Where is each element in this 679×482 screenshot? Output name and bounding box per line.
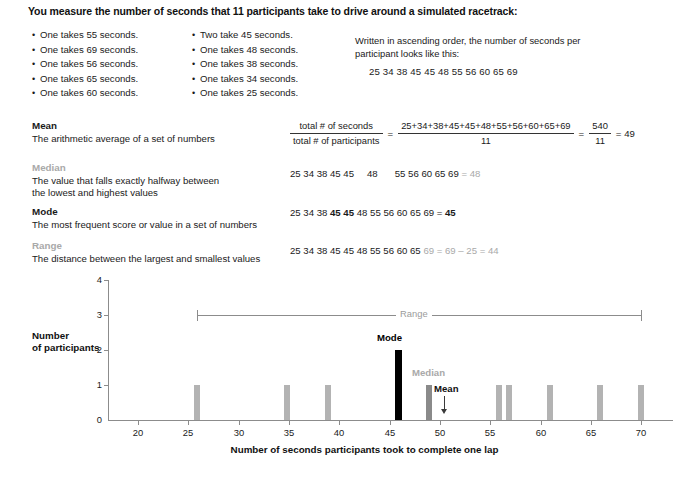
list-item-label: One takes 25 seconds.: [200, 86, 298, 101]
x-tick-mark-55: [490, 421, 491, 425]
bar-56: [506, 385, 512, 420]
definition-term: Mean: [32, 120, 215, 133]
y-tick-label-2: 2: [88, 344, 102, 355]
bullet-icon: •: [192, 86, 200, 101]
mode-equals-sign: =: [437, 207, 443, 218]
y-tick-label-3: 3: [88, 309, 102, 320]
median-middle-value: 48: [367, 168, 378, 179]
bar-34: [284, 385, 290, 420]
x-tick-mark-50: [440, 421, 441, 425]
bullet-icon: •: [192, 28, 200, 43]
list-item: • One takes 65 seconds.: [32, 72, 138, 87]
list-item: • One takes 34 seconds.: [192, 72, 298, 87]
median-annotation-label: Median: [412, 367, 445, 378]
x-tick-mark-70: [641, 421, 642, 425]
bar-55: [496, 385, 502, 420]
bullet-icon: •: [32, 57, 40, 72]
list-item: • One takes 25 seconds.: [192, 86, 298, 101]
mean-total-denominator: 11: [589, 134, 611, 147]
bullet-icon: •: [192, 72, 200, 87]
list-item: • One takes 69 seconds.: [32, 43, 138, 58]
definition-range: Range The distance between the largest a…: [32, 240, 260, 265]
list-item: • One takes 56 seconds.: [32, 57, 138, 72]
y-axis-line: [108, 280, 109, 421]
list-item: • One takes 48 seconds.: [192, 43, 298, 58]
list-item-label: One takes 69 seconds.: [40, 43, 138, 58]
mean-sum-numerator: 25+34+38+45+45+48+55+56+60+65+69: [398, 120, 573, 134]
mean-sum-denominator: 11: [398, 134, 573, 147]
x-tick-label-40: 40: [329, 427, 349, 438]
measurement-list-column-1: • One takes 55 seconds. • One takes 69 s…: [32, 28, 138, 101]
bar-45-mode: [395, 350, 402, 420]
bullet-icon: •: [32, 72, 40, 87]
mode-calculation: 25 34 38 45 45 48 55 56 60 65 69 = 45: [290, 207, 456, 218]
mean-annotation-label: Mean: [434, 383, 459, 394]
mode-values-before: 25 34 38: [290, 207, 327, 218]
mode-values-after: 48 55 56 60 65 69: [357, 207, 434, 218]
bullet-icon: •: [32, 86, 40, 101]
definition-term: Range: [32, 240, 260, 253]
bullet-icon: •: [192, 43, 200, 58]
median-left-values: 25 34 38 45 45: [290, 168, 354, 179]
definition-description: The distance between the largest and sma…: [32, 253, 260, 266]
list-item: • One takes 55 seconds.: [32, 28, 138, 43]
range-result: = 69 – 25 = 44: [437, 245, 499, 256]
mean-total-numerator: 540: [589, 120, 611, 134]
list-item-label: One takes 65 seconds.: [40, 72, 138, 87]
list-item: • One takes 38 seconds.: [192, 57, 298, 72]
y-tick-label-0: 0: [88, 414, 102, 425]
page-title: You measure the number of seconds that 1…: [28, 5, 658, 17]
range-annotation-label: Range: [396, 308, 432, 319]
bar-69: [638, 385, 644, 420]
range-max-value: 69: [423, 245, 434, 256]
x-tick-label-70: 70: [631, 427, 651, 438]
mode-result: 45: [445, 207, 456, 218]
bar-60: [547, 385, 553, 420]
bullet-icon: •: [192, 57, 200, 72]
distribution-chart: Number of participants 4 3 2 1 0 Range: [0, 268, 679, 482]
measurement-list-column-2: • Two take 45 seconds. • One takes 48 se…: [192, 28, 298, 101]
mode-highlighted-values: 45 45: [330, 207, 354, 218]
equals-sign-1: =: [388, 128, 394, 139]
list-item: • One takes 60 seconds.: [32, 86, 138, 101]
ascending-order-note: Written in ascending order, the number o…: [355, 35, 585, 60]
range-cap-right: [641, 310, 642, 321]
x-tick-mark-25: [188, 421, 189, 425]
definition-term: Mode: [32, 206, 257, 219]
list-item-label: One takes 48 seconds.: [200, 43, 298, 58]
x-axis-title: Number of seconds participants took to c…: [25, 444, 679, 455]
mean-ratio-numerator: total # of seconds: [290, 120, 383, 134]
bullet-icon: •: [32, 43, 40, 58]
list-item-label: One takes 56 seconds.: [40, 57, 138, 72]
list-item-label: One takes 60 seconds.: [40, 86, 138, 101]
x-tick-mark-60: [541, 421, 542, 425]
range-calculation: 25 34 38 45 45 48 55 56 60 65 69 = 69 – …: [290, 245, 499, 256]
bullet-icon: •: [32, 28, 40, 43]
infographic-page: You measure the number of seconds that 1…: [0, 0, 679, 482]
x-tick-mark-30: [239, 421, 240, 425]
range-values-before: 25 34 38 45 45 48 55 56 60 65: [290, 245, 421, 256]
definition-description: The arithmetic average of a set of numbe…: [32, 133, 215, 146]
definition-term: Median: [32, 162, 219, 175]
x-tick-mark-20: [138, 421, 139, 425]
definition-description-line-1: The value that falls exactly halfway bet…: [32, 175, 219, 188]
mean-ratio-fraction: total # of seconds total # of participan…: [290, 120, 383, 147]
list-item-label: One takes 34 seconds.: [200, 72, 298, 87]
bar-25: [194, 385, 200, 420]
bar-65: [597, 385, 603, 420]
equals-sign-2: =: [579, 128, 585, 139]
bar-38: [325, 385, 331, 420]
x-tick-label-60: 60: [531, 427, 551, 438]
definition-mean: Mean The arithmetic average of a set of …: [32, 120, 215, 145]
mean-calculation: total # of seconds total # of participan…: [290, 120, 635, 147]
x-tick-label-55: 55: [480, 427, 500, 438]
x-tick-mark-45: [390, 421, 391, 425]
x-tick-label-30: 30: [229, 427, 249, 438]
definition-median: Median The value that falls exactly half…: [32, 162, 219, 200]
x-tick-label-20: 20: [128, 427, 148, 438]
mean-result: = 49: [616, 128, 635, 139]
ascending-order-sequence: 25 34 38 45 45 48 55 56 60 65 69: [369, 66, 518, 77]
list-item: • Two take 45 seconds.: [192, 28, 298, 43]
mean-sum-fraction: 25+34+38+45+45+48+55+56+60+65+69 11: [398, 120, 573, 147]
x-tick-label-65: 65: [581, 427, 601, 438]
